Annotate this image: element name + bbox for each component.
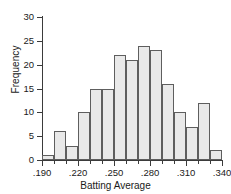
x-tick-minor xyxy=(174,161,175,164)
x-tick-label: .250 xyxy=(94,168,134,178)
x-tick-minor xyxy=(54,161,55,164)
x-tick-minor xyxy=(90,161,91,164)
x-tick-minor xyxy=(66,161,67,164)
histogram-bar xyxy=(114,55,126,160)
histogram-bar xyxy=(102,89,114,161)
x-tick-label: .190 xyxy=(22,168,62,178)
x-tick xyxy=(78,161,79,166)
x-tick-minor xyxy=(210,161,211,164)
histogram-bar xyxy=(210,150,222,160)
y-tick-label: 0 xyxy=(0,155,34,165)
plot-area xyxy=(42,17,222,160)
histogram-bar xyxy=(78,112,90,160)
x-tick-minor xyxy=(198,161,199,164)
x-tick xyxy=(150,161,151,166)
y-tick-label: 10 xyxy=(0,107,34,117)
x-tick-label: .280 xyxy=(130,168,170,178)
histogram-bar xyxy=(162,84,174,160)
x-tick-label: .340 xyxy=(202,168,231,178)
histogram-bar xyxy=(138,46,150,160)
histogram-bar xyxy=(54,131,66,160)
histogram-bar xyxy=(66,146,78,160)
x-tick xyxy=(186,161,187,166)
x-tick-label: .220 xyxy=(58,168,98,178)
histogram-chart: Frequency 051015202530 .190.220.250.280.… xyxy=(0,0,231,194)
x-tick xyxy=(42,161,43,166)
histogram-bar xyxy=(90,89,102,161)
y-tick-label: 30 xyxy=(0,12,34,22)
y-tick-label: 25 xyxy=(0,36,34,46)
x-axis-line xyxy=(42,160,223,161)
histogram-bar xyxy=(198,103,210,160)
x-tick xyxy=(114,161,115,166)
histogram-bar xyxy=(174,112,186,160)
y-tick-label: 20 xyxy=(0,60,34,70)
histogram-bar xyxy=(150,50,162,160)
x-tick-minor xyxy=(126,161,127,164)
x-tick-minor xyxy=(162,161,163,164)
y-tick-label: 5 xyxy=(0,131,34,141)
x-tick-label: .310 xyxy=(166,168,206,178)
histogram-bar xyxy=(186,127,198,160)
x-tick xyxy=(222,161,223,166)
x-tick-minor xyxy=(138,161,139,164)
histogram-bar xyxy=(42,155,54,160)
x-axis-title: Batting Average xyxy=(0,180,231,191)
y-tick-label: 15 xyxy=(0,84,34,94)
x-tick-minor xyxy=(102,161,103,164)
histogram-bar xyxy=(126,60,138,160)
